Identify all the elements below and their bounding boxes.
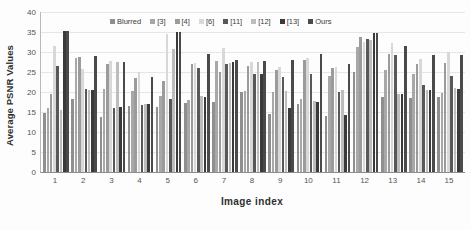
legend-item[interactable]: [11] (223, 17, 242, 26)
bar (409, 98, 412, 172)
bar (109, 61, 112, 172)
bar-group (70, 12, 98, 172)
bar (119, 107, 122, 172)
y-tick-label: 5 (32, 148, 36, 157)
bar (91, 90, 94, 172)
bar (291, 60, 294, 172)
bar (268, 114, 271, 172)
x-tick-label: 13 (379, 176, 407, 190)
x-tick-label: 6 (182, 176, 210, 190)
bar (282, 77, 285, 172)
bar (348, 64, 351, 172)
bar-group (183, 12, 211, 172)
bar (179, 32, 182, 172)
bar (444, 63, 447, 172)
bar-group (436, 12, 464, 172)
x-tick-label: 12 (351, 176, 379, 190)
bar (169, 99, 172, 172)
bar (197, 68, 200, 172)
bar (397, 94, 400, 172)
legend-item[interactable]: Ours (308, 17, 331, 26)
bar (394, 55, 397, 172)
legend-swatch-icon (223, 19, 228, 24)
bar-group (267, 12, 295, 172)
legend-item[interactable]: Blurred (110, 17, 141, 26)
legend-label: [12] (258, 17, 271, 26)
bar (297, 104, 300, 172)
bar (366, 39, 369, 172)
y-tick-label: 30 (27, 48, 36, 57)
bar (338, 92, 341, 172)
bar-group (155, 12, 183, 172)
bar (176, 32, 179, 172)
y-tick-label: 35 (27, 28, 36, 37)
legend-swatch-icon (308, 19, 313, 24)
y-tick-label: 10 (27, 128, 36, 137)
bar (113, 108, 116, 172)
bar (450, 76, 453, 172)
bar (460, 55, 463, 172)
bar (441, 93, 444, 172)
bar (212, 102, 215, 172)
bar (335, 67, 338, 172)
y-tick-label: 25 (27, 68, 36, 77)
bar (325, 116, 328, 172)
bar (316, 102, 319, 172)
legend-item[interactable]: [12] (251, 17, 271, 26)
bar (60, 110, 63, 172)
x-tick-label: 14 (407, 176, 435, 190)
bar (187, 100, 190, 172)
bar (313, 101, 316, 172)
bar (162, 81, 165, 172)
bar (416, 64, 419, 172)
legend-swatch-icon (110, 19, 115, 24)
bar (215, 61, 218, 172)
bar (412, 74, 415, 172)
chart-legend: Blurred[3][4][6][11][12][13]Ours (110, 15, 331, 27)
bar (103, 89, 106, 172)
bar (56, 66, 59, 172)
legend-item[interactable]: [6] (199, 17, 214, 26)
plot-area (40, 12, 465, 173)
bar (240, 92, 243, 172)
legend-item[interactable]: [4] (175, 17, 190, 26)
bar-group (323, 12, 351, 172)
y-tick-label: 15 (27, 108, 36, 117)
bar (263, 61, 266, 172)
bar (71, 99, 74, 172)
bar (244, 91, 247, 172)
bar (306, 58, 309, 172)
x-axis-title: Image index (40, 196, 464, 207)
bar-group (211, 12, 239, 172)
bar (275, 70, 278, 172)
legend-item[interactable]: [13] (280, 17, 300, 26)
bar-group (42, 12, 70, 172)
x-tick-label: 1 (41, 176, 69, 190)
bar (219, 72, 222, 172)
bar (260, 74, 263, 172)
legend-label: [3] (157, 17, 165, 26)
bar (100, 117, 103, 172)
bar (94, 56, 97, 172)
bar (285, 91, 288, 172)
bar (43, 113, 46, 172)
bar (422, 85, 425, 172)
bar (341, 90, 344, 172)
bar (331, 68, 334, 172)
legend-item[interactable]: [3] (150, 17, 165, 26)
bar (457, 89, 460, 172)
bar (134, 78, 137, 172)
x-axis-ticks: 123456789101112131415 (40, 176, 464, 190)
bar (388, 54, 391, 172)
legend-label: [13] (287, 17, 300, 26)
x-tick-label: 11 (322, 176, 350, 190)
y-tick-label: 40 (27, 8, 36, 17)
x-tick-label: 7 (210, 176, 238, 190)
bar (310, 74, 313, 172)
bar (250, 62, 253, 172)
legend-label: Blurred (117, 17, 141, 26)
bar (141, 105, 144, 172)
y-axis-ticks: 4035302520151050 (18, 12, 38, 172)
y-tick-label: 0 (32, 168, 36, 177)
bar (53, 46, 56, 172)
